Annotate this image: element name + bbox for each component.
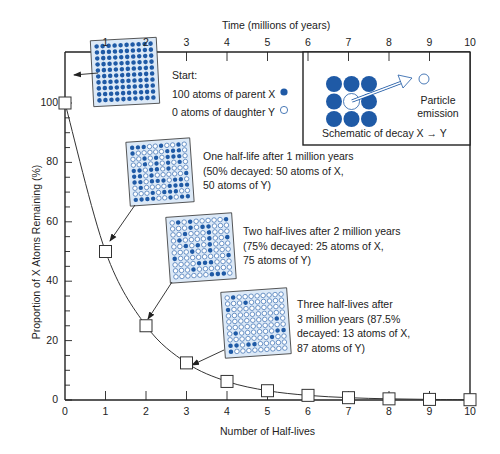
daughter-atom-icon	[240, 349, 245, 354]
daughter-atom-icon	[195, 231, 200, 236]
daughter-atom-icon	[153, 144, 158, 149]
data-point-marker	[302, 389, 314, 401]
daughter-atom-icon	[177, 232, 182, 237]
daughter-atom-icon	[264, 341, 269, 346]
data-point-marker	[424, 393, 436, 405]
daughter-atom-icon	[178, 171, 183, 176]
pointer-arrow	[192, 350, 224, 365]
daughter-atom-icon	[184, 177, 189, 182]
annotation-2-line-3: 75 atoms of Y)	[243, 253, 401, 268]
y-tick-label: 40	[30, 274, 58, 287]
daughter-atom-icon	[213, 236, 218, 241]
daughter-atom-icon	[226, 319, 231, 324]
daughter-atom-icon	[147, 144, 152, 149]
top-x-tick-label: 6	[298, 36, 318, 49]
daughter-atom-icon	[215, 265, 220, 270]
daughter-atom-icon	[202, 248, 207, 253]
daughter-atom-icon	[220, 247, 225, 252]
top-x-tick-label: 9	[420, 36, 440, 49]
y-tick-label: 0	[30, 393, 58, 406]
daughter-atom-icon	[256, 317, 261, 322]
daughter-atom-icon	[240, 343, 245, 348]
daughter-atom-icon	[131, 163, 136, 168]
daughter-atom-icon	[240, 337, 245, 342]
daughter-atom-icon	[179, 188, 184, 193]
daughter-atom-icon	[203, 266, 208, 271]
annotation-1-line-2: (50% decayed: 50 atoms of X,	[203, 164, 354, 179]
x-tick-label: 10	[460, 405, 480, 418]
daughter-atom-icon	[144, 185, 149, 190]
x-tick-label: 7	[339, 405, 359, 418]
particle-emission-line-1: Particle	[408, 94, 468, 107]
daughter-atom-icon	[264, 335, 269, 340]
annotation-3-line-2: 3 million years (87.5%	[297, 312, 410, 327]
top-x-tick-label: 2	[136, 36, 156, 49]
daughter-atom-icon	[167, 172, 172, 177]
daughter-atom-icon	[255, 293, 260, 298]
parent-atom-icon	[326, 94, 342, 110]
top-axis-title: Time (millions of years)	[222, 19, 330, 32]
daughter-atom-icon	[279, 298, 284, 303]
daughter-atom-icon	[270, 346, 275, 351]
daughter-atom-icon	[157, 196, 162, 201]
daughter-atom-icon	[279, 292, 284, 297]
daughter-atom-icon	[212, 224, 217, 229]
daughter-atom-icon	[174, 195, 179, 200]
daughter-atom-icon	[197, 267, 202, 272]
daughter-atom-icon	[178, 165, 183, 170]
daughter-atom-icon	[220, 253, 225, 258]
daughter-atom-icon	[183, 238, 188, 243]
daughter-atom-icon	[196, 255, 201, 260]
annotation-one-half-life: One half-life after 1 million years (50%…	[203, 149, 354, 193]
daughter-atom-icon	[218, 223, 223, 228]
daughter-atom-icon	[267, 293, 272, 298]
daughter-atom-icon	[212, 218, 217, 223]
daughter-atom-icon	[208, 254, 213, 259]
daughter-atom-icon	[203, 272, 208, 277]
daughter-atom-icon	[189, 243, 194, 248]
daughter-atom-icon	[269, 323, 274, 328]
daughter-atom-icon	[238, 313, 243, 318]
annotation-3-line-3: decayed: 13 atoms of X,	[297, 326, 410, 341]
data-point-marker	[343, 392, 355, 404]
daughter-atom-icon	[150, 185, 155, 190]
daughter-atom-icon	[221, 265, 226, 270]
daughter-atom-icon	[182, 142, 187, 147]
daughter-atom-icon	[232, 319, 237, 324]
y-tick-label: 100	[30, 96, 58, 109]
daughter-atom-icon	[148, 150, 153, 155]
daughter-atom-icon	[256, 305, 261, 310]
daughter-atom-icon	[237, 301, 242, 306]
daughter-atom-icon	[170, 221, 175, 226]
daughter-atom-icon	[239, 331, 244, 336]
daughter-atom-icon	[178, 256, 183, 261]
x-tick-label: 8	[379, 405, 399, 418]
daughter-atom-icon	[159, 149, 164, 154]
daughter-atom-icon	[257, 323, 262, 328]
daughter-atom-icon	[183, 165, 188, 170]
daughter-atom-icon	[249, 300, 254, 305]
daughter-atom-icon	[224, 229, 229, 234]
x-tick-label: 2	[136, 405, 156, 418]
daughter-atom-icon	[262, 317, 267, 322]
daughter-atom-icon	[235, 349, 240, 354]
daughter-atom-icon	[200, 218, 205, 223]
daughter-atom-icon	[225, 302, 230, 307]
daughter-atom-icon	[239, 325, 244, 330]
daughter-atom-icon	[160, 161, 165, 166]
decayed-atom-icon	[344, 94, 360, 110]
daughter-atom-icon	[263, 323, 268, 328]
x-tick-label: 4	[217, 405, 237, 418]
daughter-atom-icon	[270, 340, 275, 345]
daughter-atom-icon	[261, 293, 266, 298]
daughter-atom-icon	[231, 301, 236, 306]
daughter-atom-icon	[252, 336, 257, 341]
daughter-atom-icon	[215, 259, 220, 264]
daughter-atom-icon	[197, 273, 202, 278]
daughter-atom-icon	[249, 294, 254, 299]
daughter-atom-icon	[189, 231, 194, 236]
daughter-atom-icon	[156, 190, 161, 195]
pointer-arrow	[110, 205, 135, 241]
daughter-atom-icon	[172, 172, 177, 177]
daughter-atom-icon	[136, 157, 141, 162]
